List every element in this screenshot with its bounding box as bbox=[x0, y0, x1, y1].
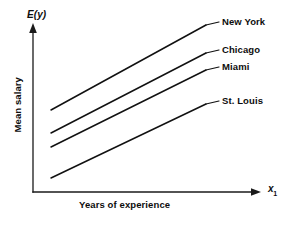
chart-plot-area bbox=[0, 0, 294, 231]
series-label-st-louis: St. Louis bbox=[222, 96, 263, 106]
x-axis-title: Years of experience bbox=[79, 200, 170, 210]
leader-line-chicago bbox=[206, 50, 219, 53]
y-axis-title: Mean salary bbox=[13, 65, 23, 145]
x-axis-arrow-icon bbox=[251, 188, 261, 196]
x-axis-variable-label: x1 bbox=[268, 184, 278, 196]
x-axis-variable-subscript: 1 bbox=[273, 190, 277, 197]
leader-line-miami bbox=[206, 67, 219, 70]
series-label-miami: Miami bbox=[222, 62, 249, 72]
y-axis-variable-label: E(y) bbox=[27, 10, 46, 20]
chart-figure: E(y) x1 Mean salary Years of experience … bbox=[0, 0, 294, 231]
series-label-new-york: New York bbox=[222, 17, 265, 27]
leader-line-st-louis bbox=[206, 101, 219, 104]
series-line-miami bbox=[51, 70, 206, 147]
series-line-chicago bbox=[51, 53, 206, 133]
y-axis-arrow-icon bbox=[29, 23, 37, 33]
series-label-chicago: Chicago bbox=[222, 45, 260, 55]
series-line-new-york bbox=[51, 25, 206, 110]
leader-line-new-york bbox=[206, 22, 219, 25]
series-line-st-louis bbox=[51, 104, 206, 178]
